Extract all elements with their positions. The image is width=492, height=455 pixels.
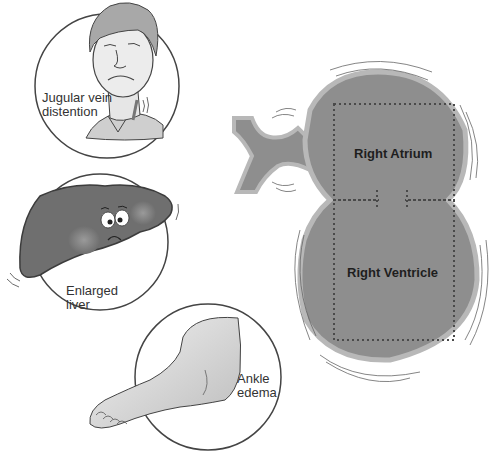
ankle-label: Ankle edema — [237, 372, 277, 400]
heart-diagram — [234, 61, 488, 381]
jvd-illustration — [35, 3, 179, 158]
liver-label: Enlarged liver — [66, 284, 118, 312]
right-atrium-label: Right Atrium — [354, 146, 432, 161]
right-ventricle-label: Right Ventricle — [347, 265, 438, 280]
vena-cava — [234, 118, 310, 192]
jvd-label: Jugular vein distention — [42, 91, 112, 119]
heart-body — [300, 72, 477, 360]
